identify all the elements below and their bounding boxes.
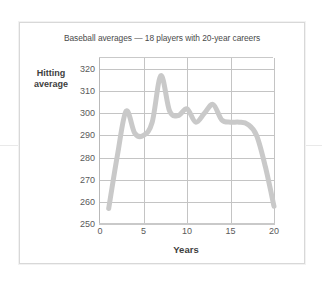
y-tick-label-270: 270 [80,175,95,185]
y-axis-title-line-1: Hitting [24,68,78,79]
x-tick-label-10: 10 [182,226,192,236]
y-tick-label-260: 260 [80,197,95,207]
x-tick-label-15: 15 [225,226,235,236]
chart-title: Baseball averages — 18 players with 20-y… [19,33,305,43]
x-tick-label-0: 0 [97,226,102,236]
y-axis-title-line-2: average [24,79,78,90]
plot-area: 250260270280290300310320 05101520 [99,58,273,224]
y-axis-title: Hitting average [24,68,78,90]
series-path [109,76,274,209]
y-tick-label-310: 310 [80,86,95,96]
x-tick-label-20: 20 [269,226,279,236]
y-tick-label-290: 290 [80,130,95,140]
y-tick-label-280: 280 [80,153,95,163]
line-series-hitting-average [100,58,274,224]
x-tick-label-5: 5 [141,226,146,236]
y-tick-label-250: 250 [80,219,95,229]
y-tick-label-300: 300 [80,108,95,118]
y-tick-label-320: 320 [80,64,95,74]
x-axis-title: Years [99,244,273,255]
plot-bottom-border [99,223,275,225]
